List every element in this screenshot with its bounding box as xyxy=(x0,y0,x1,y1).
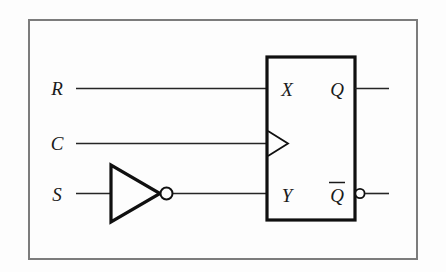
port-label-q-bar: Q xyxy=(330,185,344,206)
not-gate-triangle xyxy=(111,165,160,222)
input-label-s: S xyxy=(52,184,62,205)
input-label-c: C xyxy=(51,133,64,154)
figure-root: R C S X Y Q Q xyxy=(0,0,446,272)
not-gate-inversion-bubble xyxy=(161,188,173,200)
input-label-r: R xyxy=(50,78,63,99)
circuit-diagram: R C S X Y Q Q xyxy=(0,0,446,272)
port-label-x: X xyxy=(280,79,294,100)
q-bar-inversion-bubble xyxy=(355,189,364,198)
port-label-q: Q xyxy=(330,79,344,100)
